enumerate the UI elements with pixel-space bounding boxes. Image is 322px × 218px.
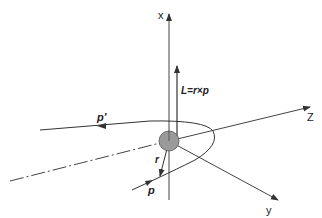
x-axis-label: x bbox=[158, 9, 164, 21]
scattering-diagram: x Z y L=r×p r p p' bbox=[0, 0, 322, 218]
position-label: r bbox=[155, 154, 160, 165]
z-axis-label: Z bbox=[307, 111, 314, 123]
particle-trajectory bbox=[40, 121, 215, 190]
y-axis bbox=[169, 141, 278, 200]
angular-momentum-label: L=r×p bbox=[181, 85, 209, 96]
asymptote-line bbox=[10, 143, 160, 181]
outgoing-arrowhead-icon bbox=[97, 123, 106, 129]
y-axis-label: y bbox=[266, 204, 272, 216]
incoming-momentum-label: p bbox=[147, 184, 155, 196]
outgoing-momentum-label: p' bbox=[96, 111, 107, 123]
z-axis bbox=[169, 107, 310, 141]
